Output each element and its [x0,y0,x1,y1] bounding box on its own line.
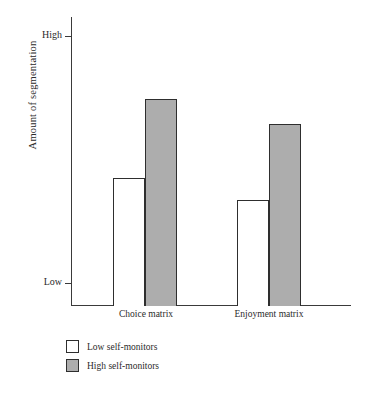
legend: Low self-monitors High self-monitors [66,337,159,375]
legend-item-label: Low self-monitors [87,342,157,352]
y-tick-label-low: Low [32,276,62,287]
legend-item-low-self-monitors: Low self-monitors [66,337,159,356]
bar-choice-matrix-low-self-monitors [113,178,145,306]
y-tick-mark-high [65,36,72,37]
y-axis-line [71,17,72,306]
y-tick-mark-low [65,283,72,284]
legend-item-high-self-monitors: High self-monitors [66,356,159,375]
bar-enjoyment-matrix-high-self-monitors [269,124,301,306]
gray-square-swatch-icon [66,359,79,372]
white-square-swatch-icon [66,340,79,353]
legend-item-label: High self-monitors [87,361,159,371]
x-tick-label-enjoyment-matrix: Enjoyment matrix [219,309,319,319]
y-tick-label-high: High [32,29,62,40]
bar-enjoyment-matrix-low-self-monitors [237,200,269,306]
x-tick-label-choice-matrix: Choice matrix [96,309,196,319]
bar-chart-figure: Amount of segmentation High Low Choice m… [0,0,365,395]
bar-choice-matrix-high-self-monitors [145,99,177,306]
